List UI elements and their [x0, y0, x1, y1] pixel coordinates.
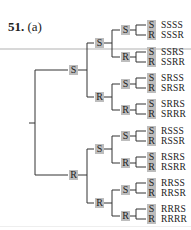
node-l1-r: R [69, 170, 78, 180]
node-l4: R [147, 109, 156, 119]
outcome-label: SSSS [161, 20, 183, 30]
outcome-label: SRRS [161, 99, 185, 109]
outcome-label: SSRS [161, 47, 184, 57]
node-l2: R [95, 92, 104, 102]
node-l3: R [121, 105, 130, 115]
node-l3: R [121, 211, 130, 221]
outcome-label: SRSR [161, 83, 185, 93]
outcome-label: RRRS [161, 204, 186, 214]
outcome-label: RSRR [161, 162, 186, 172]
node-l3: R [121, 158, 130, 168]
node-l2: S [95, 38, 104, 48]
outcome-label: RSRS [161, 152, 185, 162]
node-l2: R [95, 198, 104, 208]
outcome-label: SSSR [161, 30, 184, 40]
node-l4: R [147, 162, 156, 172]
node-l4: R [147, 83, 156, 93]
outcome-label: SSRR [161, 57, 185, 67]
outcome-label: RSSS [161, 126, 184, 136]
node-l2: S [95, 144, 104, 154]
outcome-label: RRSS [161, 178, 185, 188]
node-l4: R [147, 214, 156, 224]
outcome-label: RRRR [161, 214, 187, 224]
outcome-label: RSSR [161, 136, 185, 146]
node-l4: R [147, 136, 156, 146]
node-l1-s: S [69, 65, 78, 75]
outcome-label: SRSS [161, 73, 184, 83]
node-l3: S [121, 185, 130, 195]
node-l3: S [121, 79, 130, 89]
outcome-label: RRSR [161, 188, 186, 198]
node-l3: S [121, 25, 130, 35]
node-l3: S [121, 131, 130, 141]
node-l4: R [147, 30, 156, 40]
node-l4: R [147, 188, 156, 198]
node-l3: R [121, 52, 130, 62]
outcome-label: SRRR [161, 109, 186, 119]
node-l4: R [147, 57, 156, 67]
